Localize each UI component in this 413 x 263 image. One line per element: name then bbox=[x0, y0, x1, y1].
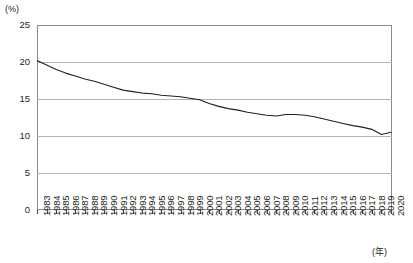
x-tick-1983 bbox=[37, 210, 38, 214]
data-line-svg bbox=[37, 25, 392, 210]
y-tick-label-0: 0 bbox=[0, 204, 30, 215]
y-tick-label-20: 20 bbox=[0, 56, 30, 67]
y-tick-label-15: 15 bbox=[0, 93, 30, 104]
x-tick-label-2020: 2020 bbox=[395, 196, 406, 216]
data-series-line bbox=[37, 61, 391, 135]
y-tick-label-25: 25 bbox=[0, 19, 30, 30]
y-axis-unit-label: (%) bbox=[5, 4, 19, 14]
y-tick-label-5: 5 bbox=[0, 167, 30, 178]
line-chart: (%) (年) 2520151050 198319841985198619871… bbox=[0, 0, 413, 263]
y-tick-label-10: 10 bbox=[0, 130, 30, 141]
x-axis-unit-label: (年) bbox=[372, 245, 387, 258]
plot-area bbox=[37, 25, 392, 210]
